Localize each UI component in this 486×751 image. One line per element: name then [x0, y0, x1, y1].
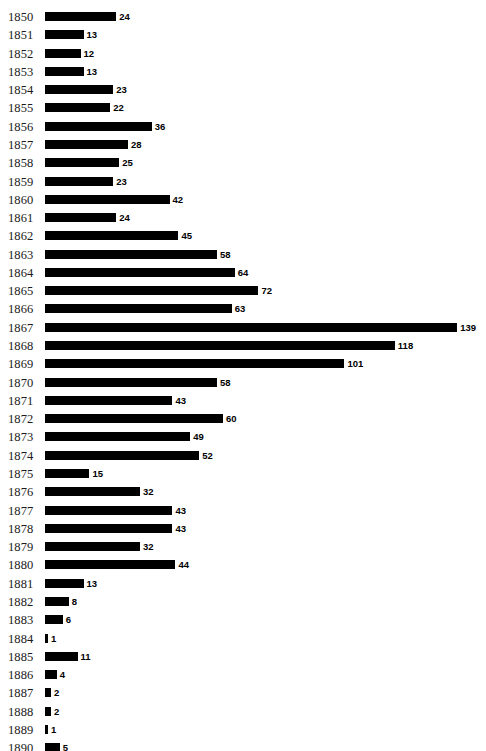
bar-track: 8	[45, 597, 77, 606]
bar-row: 185728	[0, 136, 486, 154]
bar-value-label: 6	[66, 615, 71, 624]
bar-track: 22	[45, 103, 124, 112]
bar-value-label: 43	[175, 506, 186, 515]
category-label: 1862	[8, 227, 42, 245]
bar-row: 187843	[0, 520, 486, 538]
category-label: 1881	[8, 575, 42, 593]
bar	[45, 140, 128, 149]
category-label: 1856	[8, 118, 42, 136]
bar	[45, 579, 84, 588]
bar-value-label: 2	[54, 707, 59, 716]
bar-value-label: 45	[181, 231, 192, 240]
category-label: 1853	[8, 63, 42, 81]
bar-value-label: 28	[131, 140, 142, 149]
bar	[45, 615, 63, 624]
bar-track: 4	[45, 670, 65, 679]
bar-track: 25	[45, 158, 133, 167]
bar-track: 43	[45, 506, 186, 515]
bar-row: 1867139	[0, 319, 486, 337]
bar-value-label: 22	[113, 103, 124, 112]
bar-track: 5	[45, 743, 68, 751]
bar	[45, 634, 48, 643]
category-label: 1882	[8, 593, 42, 611]
category-label: 1859	[8, 173, 42, 191]
bar-track: 44	[45, 560, 189, 569]
category-label: 1886	[8, 666, 42, 684]
bar-track: 58	[45, 378, 231, 387]
bar-value-label: 43	[175, 396, 186, 405]
bar-row: 18828	[0, 593, 486, 611]
category-label: 1871	[8, 392, 42, 410]
bar-value-label: 13	[87, 67, 98, 76]
bar	[45, 323, 457, 332]
bar	[45, 286, 258, 295]
bar	[45, 341, 395, 350]
bar-track: 24	[45, 213, 130, 222]
bar-value-label: 43	[175, 524, 186, 533]
bar-value-label: 13	[87, 579, 98, 588]
bar-value-label: 42	[173, 195, 184, 204]
bar-row: 18905	[0, 739, 486, 751]
bar-value-label: 52	[202, 451, 213, 460]
bar-row: 185212	[0, 45, 486, 63]
bar-value-label: 13	[87, 30, 98, 39]
bar-track: 36	[45, 122, 165, 131]
bar-track: 58	[45, 250, 231, 259]
category-label: 1876	[8, 483, 42, 501]
bar-row: 187349	[0, 428, 486, 446]
bar-value-label: 12	[84, 49, 95, 58]
bar	[45, 707, 51, 716]
bar-row: 185423	[0, 81, 486, 99]
category-label: 1850	[8, 8, 42, 26]
category-label: 1869	[8, 355, 42, 373]
bar	[45, 231, 178, 240]
bar-value-label: 24	[119, 213, 130, 222]
bar-value-label: 23	[116, 85, 127, 94]
bar	[45, 542, 140, 551]
bar-value-label: 36	[155, 122, 166, 131]
bar-track: 72	[45, 286, 272, 295]
bar-row: 185923	[0, 173, 486, 191]
bar-row: 188511	[0, 648, 486, 666]
category-label: 1868	[8, 337, 42, 355]
bar	[45, 670, 57, 679]
category-label: 1890	[8, 739, 42, 751]
bar	[45, 250, 217, 259]
category-label: 1877	[8, 502, 42, 520]
bar	[45, 414, 223, 423]
category-label: 1860	[8, 191, 42, 209]
bar-row: 187452	[0, 447, 486, 465]
bar-row: 186663	[0, 300, 486, 318]
plot-area: 1850241851131852121853131854231855221856…	[0, 0, 486, 751]
bar-track: 13	[45, 30, 97, 39]
bar-track: 101	[45, 359, 363, 368]
category-label: 1854	[8, 81, 42, 99]
bar-value-label: 64	[238, 268, 249, 277]
bar	[45, 688, 51, 697]
bar-row: 186572	[0, 282, 486, 300]
bar-value-label: 58	[220, 378, 231, 387]
bar-value-label: 1	[51, 725, 56, 734]
bar-row: 185313	[0, 63, 486, 81]
bar-track: 12	[45, 49, 94, 58]
bar-chart: 1850241851131852121853131854231855221856…	[0, 0, 486, 751]
bar-track: 2	[45, 707, 59, 716]
bar	[45, 487, 140, 496]
bar-row: 186124	[0, 209, 486, 227]
bar-value-label: 23	[116, 177, 127, 186]
bar	[45, 432, 190, 441]
bar-track: 2	[45, 688, 59, 697]
bar-row: 1868118	[0, 337, 486, 355]
bar-track: 32	[45, 487, 153, 496]
bar	[45, 30, 84, 39]
bar	[45, 597, 69, 606]
bar-track: 23	[45, 177, 127, 186]
bar-row: 185113	[0, 26, 486, 44]
bar	[45, 524, 172, 533]
category-label: 1852	[8, 45, 42, 63]
bar-row: 186042	[0, 191, 486, 209]
bar	[45, 304, 232, 313]
bar	[45, 177, 113, 186]
bar	[45, 103, 110, 112]
category-label: 1872	[8, 410, 42, 428]
